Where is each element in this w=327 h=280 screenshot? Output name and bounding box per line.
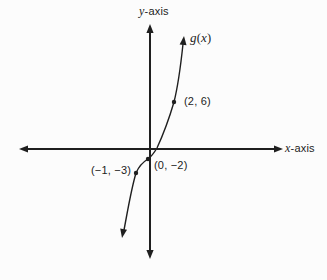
curve-function-name: g	[190, 30, 197, 45]
graph-canvas	[0, 0, 327, 280]
point-dot-2-6	[172, 100, 176, 104]
point-dot-0-neg2	[146, 157, 150, 161]
function-graph-figure: y-axis x-axis g(x) (2, 6) (0, −2) (−1, −…	[0, 0, 327, 280]
point-dot-neg1-neg3	[134, 171, 138, 175]
y-axis-label: y-axis	[139, 5, 169, 18]
x-axis-right-arrow-icon	[274, 145, 283, 152]
curve-name-label: g(x)	[190, 31, 211, 45]
point-label-0-neg2: (0, −2)	[154, 159, 188, 172]
y-axis-bottom-arrow-icon	[146, 250, 153, 259]
x-axis-left-arrow-icon	[19, 145, 28, 152]
point-label-2-6: (2, 6)	[184, 95, 211, 108]
x-axis-suffix: -axis	[291, 142, 315, 154]
curve-top-arrow-icon	[180, 36, 187, 45]
curve-rparen: )	[207, 31, 211, 45]
gx-curve	[124, 44, 183, 230]
y-axis-suffix: -axis	[145, 5, 169, 17]
curve-bottom-arrow-icon	[120, 229, 127, 239]
point-label-neg1-neg3: (−1, −3)	[91, 164, 131, 177]
x-axis-label: x-axis	[285, 142, 315, 155]
y-axis-top-arrow-icon	[146, 24, 153, 33]
